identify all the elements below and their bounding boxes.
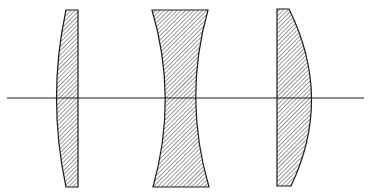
- lens-diagram: [0, 0, 373, 196]
